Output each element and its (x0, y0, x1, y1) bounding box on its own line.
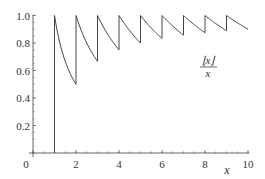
function-label-denominator: x (205, 67, 211, 79)
function-label-numerator: ⌊x⌋ (202, 54, 217, 66)
function-label: ⌊x⌋ x (200, 54, 217, 79)
x-tick-label: 6 (159, 158, 165, 170)
x-axis-label: x (223, 163, 230, 177)
x-tick-label: 2 (73, 158, 79, 170)
y-tick-label: 0.8 (16, 37, 30, 49)
y-tick-label: 1.0 (16, 10, 30, 22)
x-tick-label: 4 (116, 158, 122, 170)
axes (29, 15, 249, 158)
x-tick-label: 0 (23, 158, 29, 170)
y-tick-label: 0.2 (16, 120, 30, 132)
series-line (55, 16, 249, 154)
function-curve (55, 16, 249, 154)
y-tick-label: 0.6 (16, 65, 30, 77)
x-tick-label: 10 (243, 158, 255, 170)
chart: 02468100.20.40.60.81.0 x ⌊x⌋ x (0, 0, 265, 179)
x-tick-label: 8 (202, 158, 208, 170)
y-tick-label: 0.4 (16, 92, 30, 104)
tick-labels: 02468100.20.40.60.81.0 (16, 10, 254, 171)
